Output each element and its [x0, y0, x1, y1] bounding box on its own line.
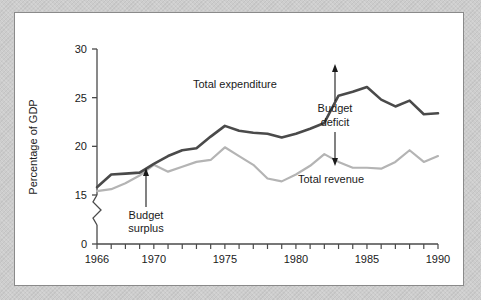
x-tick-label-group: 196619701975198019851990	[85, 253, 450, 265]
y-tick-label-0: 0	[81, 238, 87, 250]
x-tick-label-1966: 1966	[85, 253, 109, 265]
x-tick-group	[97, 244, 438, 249]
y-tick-label-20: 20	[75, 140, 87, 152]
x-tick-label-1980: 1980	[284, 253, 308, 265]
y-tick-label-group: 015202530	[75, 43, 87, 250]
x-tick-label-1990: 1990	[426, 253, 450, 265]
budget-surplus-label-line1: Budget	[129, 209, 164, 221]
x-tick-label-1970: 1970	[142, 253, 166, 265]
annotation-budget-deficit: Budget deficit	[318, 64, 353, 166]
budget-deficit-label-line2: deficit	[321, 116, 350, 128]
x-tick-label-1975: 1975	[213, 253, 237, 265]
y-axis-title: Percentage of GDP	[27, 99, 39, 194]
series-label-total-revenue: Total revenue	[298, 173, 364, 185]
y-tick-label-30: 30	[75, 43, 87, 55]
budget-deficit-arrow-head-up	[332, 64, 338, 72]
budget-surplus-label-line2: surplus	[128, 222, 164, 234]
figure-root: 015202530 196619701975198019851990 Perce…	[0, 0, 481, 300]
series-label-total-expenditure: Total expenditure	[193, 78, 277, 90]
budget-deficit-label-line1: Budget	[318, 102, 353, 114]
y-tick-label-25: 25	[75, 92, 87, 104]
series-line-total-revenue	[97, 147, 438, 191]
y-tick-label-15: 15	[75, 189, 87, 201]
series-line-total-expenditure	[97, 87, 438, 187]
y-axis-break-zigzag	[93, 195, 101, 225]
chart-svg: 015202530 196619701975198019851990 Perce…	[15, 13, 463, 285]
chart-panel: 015202530 196619701975198019851990 Perce…	[14, 12, 464, 286]
x-tick-label-1985: 1985	[355, 253, 379, 265]
